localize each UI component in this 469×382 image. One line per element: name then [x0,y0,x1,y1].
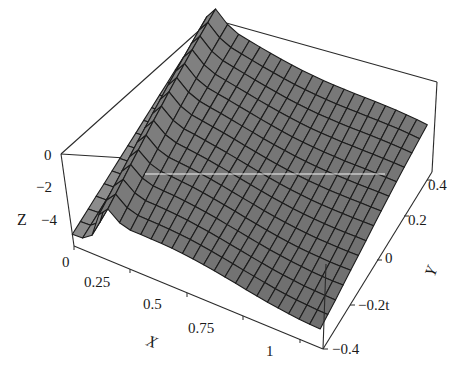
x-tick-0-5: 0.5 [143,296,162,312]
x-tick-0: 0 [62,254,70,270]
x-axis-label: X [144,331,161,351]
z-tick-minus-2: −2 [36,179,52,195]
y-axis-label: Y [421,262,441,278]
z-tick-minus-4: −4 [41,212,57,228]
x-tick-0-25: 0.25 [84,274,110,290]
z-tick-0: 0 [44,147,52,163]
surface-plot-3d: 0 −2 −4 Z 0 0.25 0.5 0.75 1 X −0.4 −0.2t… [0,0,469,382]
surface-mesh [72,9,427,329]
y-tick-minus-0-2: −0.2t [358,297,390,313]
z-axis-label: Z [17,211,27,228]
y-tick-0-4: 0.4 [428,177,447,193]
x-tick-1: 1 [266,343,274,359]
y-tick-0-2: 0.2 [408,212,427,228]
y-tick-minus-0-4: −0.4 [332,341,360,357]
x-tick-0-75: 0.75 [188,320,214,336]
y-tick-0: 0 [385,250,393,266]
